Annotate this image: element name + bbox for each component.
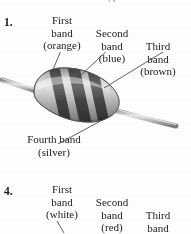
label-line: (silver) <box>8 146 100 159</box>
label-line: band <box>128 222 188 234</box>
instruction-text: For each resistor shown, find the res <box>6 0 160 3</box>
label-line: Second <box>81 196 143 209</box>
label-line: Third <box>128 209 188 222</box>
leader-third-band <box>104 52 176 88</box>
label-line: Second <box>81 27 143 40</box>
scanned-textbook-page: For each resistor shown, find the res 1.… <box>0 0 191 234</box>
label-third-band-4: Third band <box>128 209 188 234</box>
label-line: Third <box>128 40 188 53</box>
resistor-lead-right <box>112 109 176 127</box>
leader-first-band-4 <box>55 221 69 234</box>
question-number-4: 4. <box>4 185 13 198</box>
label-line: First <box>31 183 93 196</box>
resistor-photograph <box>0 52 191 144</box>
resistor-body <box>34 60 127 134</box>
question-number-1: 1. <box>4 16 13 29</box>
label-line: First <box>31 14 93 27</box>
instruction-line: For each resistor shown, find the res <box>0 0 191 9</box>
